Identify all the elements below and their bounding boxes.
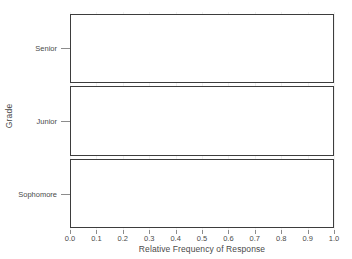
x-tick-label: 1.0 bbox=[322, 234, 346, 243]
x-tick-label: 0.8 bbox=[269, 234, 293, 243]
bar-sophomore bbox=[70, 159, 334, 228]
y-tick-label-sophomore: Sophomore bbox=[18, 189, 57, 198]
y-tick-mark bbox=[61, 121, 70, 122]
x-tick-label: 0.2 bbox=[111, 234, 135, 243]
x-tick-label: 0.4 bbox=[164, 234, 188, 243]
plot-area bbox=[70, 12, 334, 230]
bar-track bbox=[70, 159, 334, 228]
bar-junior bbox=[70, 86, 334, 155]
bar-senior bbox=[70, 14, 334, 83]
x-tick-label: 0.7 bbox=[243, 234, 267, 243]
y-tick-label-senior: Senior bbox=[35, 44, 57, 53]
x-axis-title: Relative Frequency of Response bbox=[70, 244, 334, 254]
y-tick-mark bbox=[61, 194, 70, 195]
x-tick-label: 0.0 bbox=[58, 234, 82, 243]
gridline bbox=[334, 12, 335, 230]
bar-track bbox=[70, 14, 334, 83]
x-tick-label: 0.5 bbox=[190, 234, 214, 243]
y-tick-label-junior: Junior bbox=[37, 117, 57, 126]
bar-chart: Grade SeniorJuniorSophomore 0.00.10.20.3… bbox=[0, 0, 352, 259]
y-axis-title: Grade bbox=[4, 104, 14, 129]
x-tick-label: 0.9 bbox=[296, 234, 320, 243]
y-axis-title-container: Grade bbox=[0, 0, 18, 232]
y-tick-mark bbox=[61, 48, 70, 49]
x-tick-label: 0.3 bbox=[137, 234, 161, 243]
bar-track bbox=[70, 86, 334, 155]
x-tick-label: 0.1 bbox=[84, 234, 108, 243]
x-tick-label: 0.6 bbox=[216, 234, 240, 243]
